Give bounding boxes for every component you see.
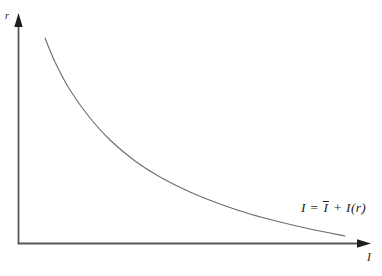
investment-curve: [45, 38, 345, 236]
x-axis-label: I: [366, 251, 372, 263]
equation-prefix: I =: [301, 200, 323, 215]
investment-function-figure: r I I = I + I(r): [0, 0, 382, 276]
chart-canvas: r I: [0, 0, 382, 276]
y-axis-arrowhead: [14, 13, 22, 27]
x-axis-arrowhead: [357, 239, 371, 247]
curve-equation-label: I = I + I(r): [301, 200, 366, 216]
y-axis-label: r: [5, 10, 10, 21]
equation-suffix: + I(r): [329, 200, 366, 215]
